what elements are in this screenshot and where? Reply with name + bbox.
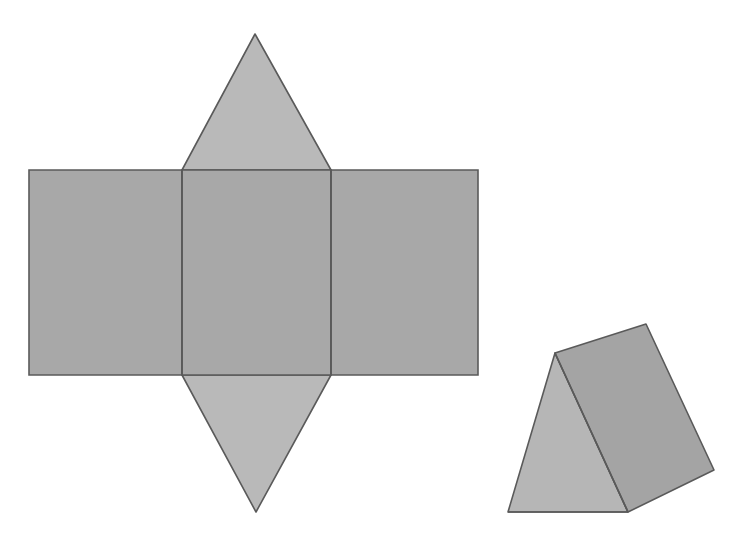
right-rectangle-face bbox=[331, 170, 478, 375]
left-rectangle-face bbox=[29, 170, 182, 375]
middle-rectangle-face bbox=[182, 170, 331, 375]
geometry-figure-canvas: Net of a triangular prism and the assemb… bbox=[0, 0, 738, 537]
